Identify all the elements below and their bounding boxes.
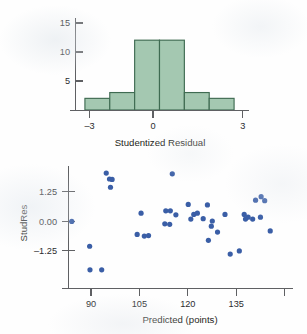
scatter-point <box>195 211 200 216</box>
scatter-point <box>206 238 211 243</box>
scatter-point <box>170 171 175 176</box>
scatter-xtick-label-135: 135 <box>229 299 244 309</box>
scatter-point <box>237 248 242 253</box>
residual-diagnostics-figure: 5 10 15 –3 0 3 Studentized Residual 1.25… <box>0 0 307 334</box>
studres-vs-predicted-scatterplot: 1.25 0.00 –1.25 StudRes 90 105 120 135 P… <box>0 160 307 334</box>
scatter-point <box>215 229 220 234</box>
scatter-point <box>69 219 74 224</box>
scatter-point <box>87 267 92 272</box>
scatter-point <box>162 221 167 226</box>
scatter-point <box>163 208 168 213</box>
scatter-point <box>205 202 210 207</box>
scatter-point <box>209 224 214 229</box>
histogram-x-axis: –3 0 3 Studentized Residual <box>70 111 249 149</box>
scatter-point <box>250 217 255 222</box>
scatter-xtick-label-90: 90 <box>86 299 96 309</box>
scatter-point <box>135 232 140 237</box>
scatter-ytick-label-neg1-25: –1.25 <box>34 246 57 256</box>
scatter-point <box>99 267 104 272</box>
histogram-xtick-label-3: 3 <box>240 121 245 131</box>
histogram-bar-bin-5 <box>184 93 209 110</box>
histogram-bars <box>85 40 234 110</box>
scatter-point <box>168 208 173 213</box>
scatter-point <box>173 212 178 217</box>
histogram-xtick-label-0: 0 <box>150 121 155 131</box>
scatter-point <box>268 228 273 233</box>
scatter-point <box>146 233 151 238</box>
scatter-point <box>186 202 191 207</box>
histogram-y-axis: 5 10 15 <box>60 18 83 111</box>
scatter-point <box>110 177 115 182</box>
scatter-point <box>87 244 92 249</box>
histogram-bar-bin-2 <box>110 93 135 110</box>
scatter-point <box>167 222 172 227</box>
histogram-bar-bin-1 <box>85 98 110 110</box>
scatter-ytick-label-0-00: 0.00 <box>39 217 57 227</box>
scatter-point <box>253 198 258 203</box>
studentized-residual-histogram: 5 10 15 –3 0 3 Studentized Residual <box>0 0 307 160</box>
histogram-xtick-label-neg3: –3 <box>84 121 94 131</box>
scatter-point-group <box>69 170 273 272</box>
scatter-point <box>222 212 227 217</box>
scatter-y-axis: 1.25 0.00 –1.25 StudRes <box>18 166 75 288</box>
scatter-point <box>210 218 215 223</box>
histogram-x-axis-title: Studentized Residual <box>115 137 206 148</box>
scatter-point <box>262 198 267 203</box>
scatter-point <box>259 194 264 199</box>
histogram-ytick-label-5: 5 <box>65 76 70 86</box>
scatter-point <box>258 215 263 220</box>
scatter-point <box>108 185 113 190</box>
scatter-point <box>138 211 143 216</box>
histogram-bar-bin-6 <box>209 98 234 110</box>
scatter-ytick-label-1-25: 1.25 <box>39 187 57 197</box>
scatter-y-axis-title: StudRes <box>18 204 29 241</box>
scatter-point <box>201 216 206 221</box>
histogram-ytick-label-10: 10 <box>60 47 70 57</box>
scatter-point <box>188 217 193 222</box>
scatter-point <box>246 215 251 220</box>
scatter-x-axis-title: Predicted (points) <box>142 314 217 325</box>
scatter-xtick-label-105: 105 <box>132 299 147 309</box>
scatter-xtick-label-120: 120 <box>180 299 195 309</box>
scatter-x-axis: 90 105 120 135 Predicted (points) <box>62 289 293 326</box>
histogram-ytick-label-15: 15 <box>60 18 70 28</box>
scatter-point <box>104 170 109 175</box>
scatter-point <box>228 251 233 256</box>
histogram-bar-bin-3 <box>135 40 160 110</box>
histogram-bar-bin-4 <box>160 40 185 110</box>
